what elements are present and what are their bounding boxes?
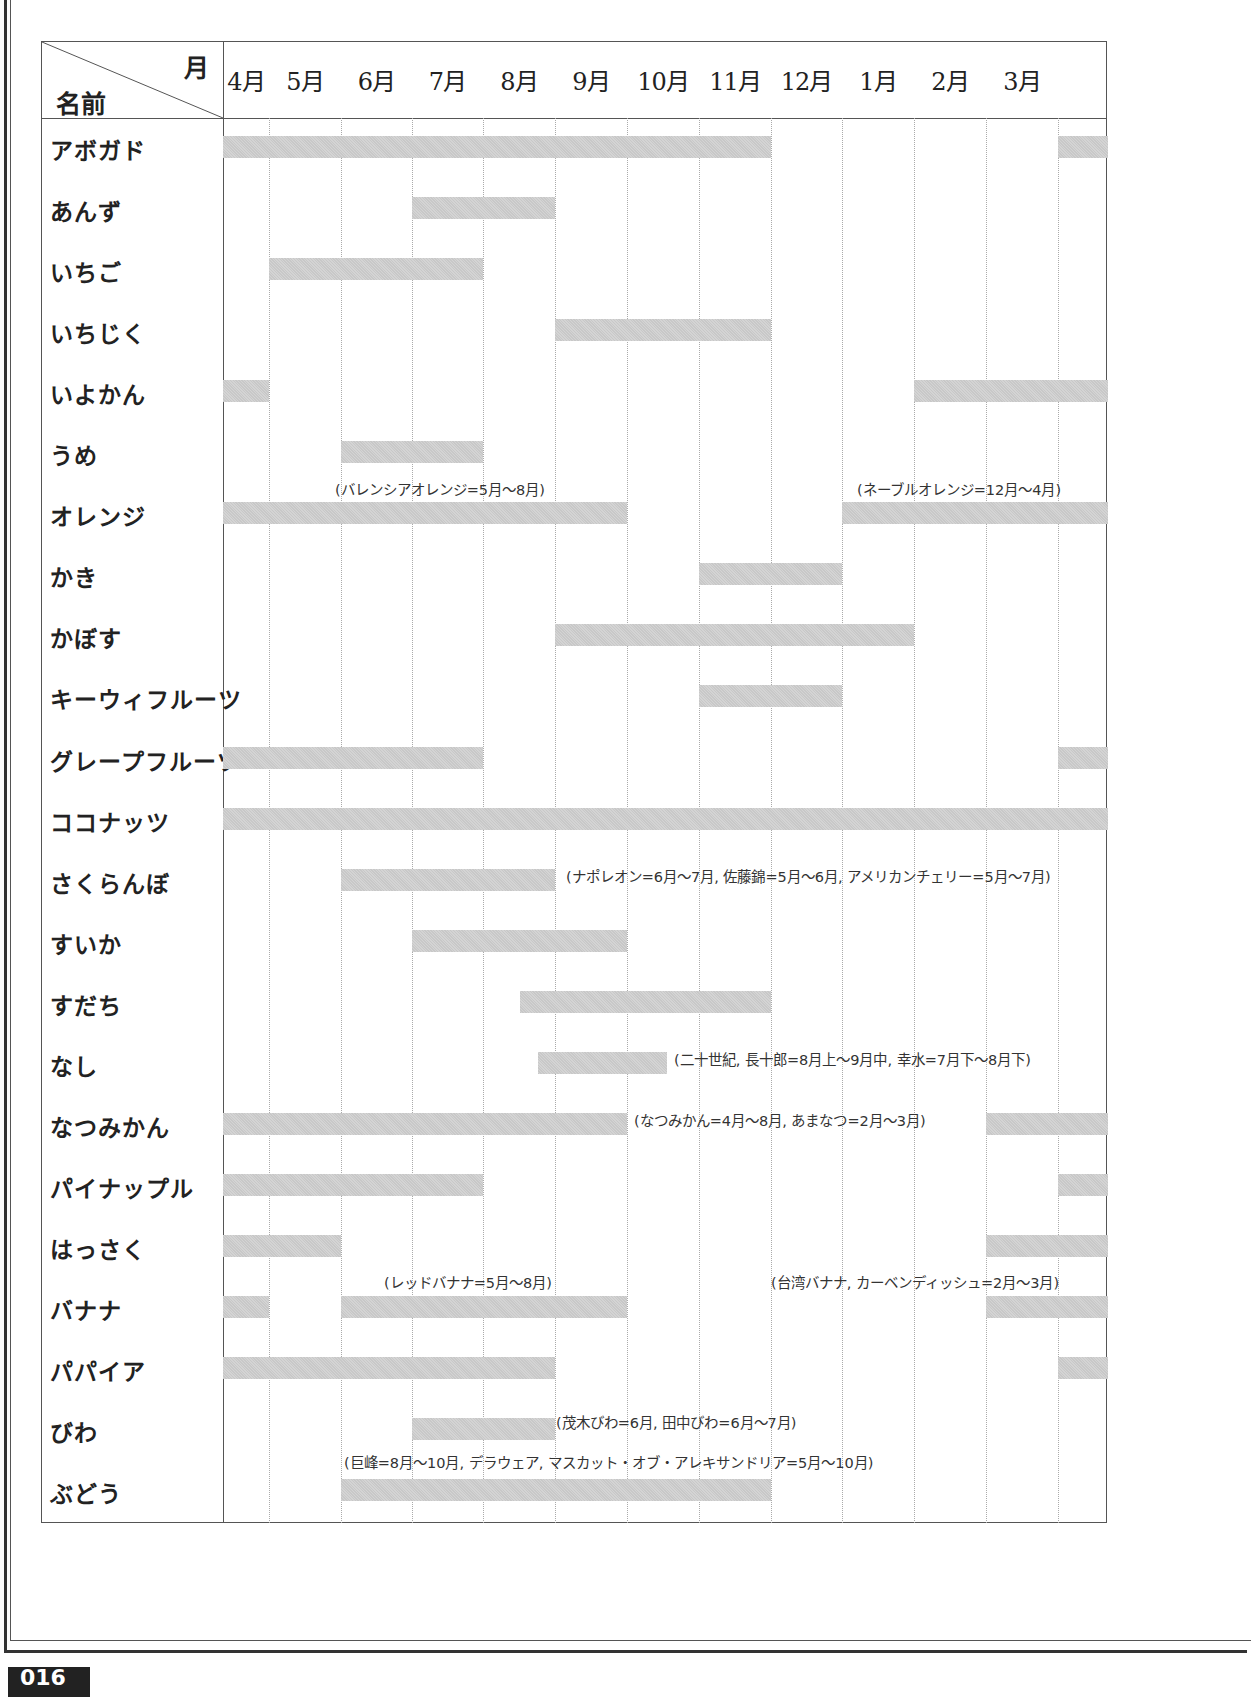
month-header-12: 3月 [1003, 62, 1040, 97]
fruit-name: いちご [50, 254, 122, 288]
page-number: 016 [8, 1667, 90, 1697]
season-bar [555, 624, 914, 646]
month-header-8: 11月 [709, 62, 761, 97]
fruit-name: なし [50, 1048, 98, 1082]
fruit-name: キーウィフルーツ [50, 681, 242, 715]
variety-note: (なつみかん=4月～8月, あまなつ=2月～3月) [634, 1109, 926, 1130]
fruit-name: いよかん [50, 376, 146, 410]
season-bar [223, 1296, 269, 1318]
variety-note: (巨峰=8月～10月, デラウェア, マスカット・オブ・アレキサンドリア=5月～… [344, 1451, 873, 1472]
fruit-name: かぼす [50, 620, 122, 654]
fruit-name: バナナ [50, 1292, 122, 1326]
fruit-name: ココナッツ [50, 804, 170, 838]
season-bar [1058, 136, 1108, 158]
season-bar [223, 1174, 483, 1196]
season-bar [223, 747, 483, 769]
season-bar [223, 808, 1108, 830]
fruit-name: パパイア [50, 1353, 146, 1387]
season-bar [555, 319, 771, 341]
corner-name-label: 名前 [56, 84, 106, 120]
month-header-3: 6月 [358, 62, 395, 97]
season-bar [520, 991, 771, 1013]
season-bar [341, 869, 555, 891]
fruit-name: なつみかん [50, 1109, 170, 1143]
variety-note: (二十世紀, 長十郎=8月上～9月中, 幸水=7月下～8月下) [674, 1048, 1031, 1069]
month-header-5: 8月 [500, 62, 537, 97]
month-header-10: 1月 [859, 62, 896, 97]
fruit-name: びわ [50, 1414, 98, 1448]
fruit-name: かき [50, 559, 98, 593]
season-bar [223, 502, 627, 524]
fruit-name: うめ [50, 437, 98, 471]
fruit-name: あんず [50, 193, 122, 227]
fruit-name: すいか [50, 926, 122, 960]
season-bar [223, 1357, 555, 1379]
season-bar [223, 1113, 627, 1135]
month-header-7: 10月 [637, 62, 689, 97]
corner-month-label: 月 [184, 48, 209, 84]
fruit-name: アボガド [50, 132, 146, 166]
season-bar [1058, 1357, 1108, 1379]
season-bar [538, 1052, 667, 1074]
season-bar [1058, 747, 1108, 769]
top-caption [150, 0, 1050, 6]
fruit-name: ぶどう [50, 1475, 122, 1509]
season-bar [412, 1418, 555, 1440]
season-bar [341, 441, 483, 463]
season-bar [699, 685, 842, 707]
variety-note: (バレンシアオレンジ=5月～8月) [335, 478, 545, 499]
month-header-11: 2月 [931, 62, 968, 97]
season-bar [223, 1235, 341, 1257]
season-bar [986, 1296, 1108, 1318]
season-bar [1058, 1174, 1108, 1196]
month-header-2: 5月 [286, 62, 323, 97]
table-header: 月 名前 4月5月6月7月8月9月10月11月12月1月2月3月 [42, 42, 1106, 119]
month-header-9: 12月 [781, 62, 833, 97]
season-bar [914, 380, 1108, 402]
season-bar [341, 1296, 627, 1318]
variety-note: (ネーブルオレンジ=12月～4月) [857, 478, 1061, 499]
season-bar [412, 930, 627, 952]
fruit-name-column: アボガドあんずいちごいちじくいよかんうめオレンジかきかぼすキーウィフルーツグレー… [42, 118, 224, 1523]
season-bar [269, 258, 483, 280]
fruit-name: パイナップル [50, 1170, 194, 1204]
variety-note: (台湾バナナ, カーベンディッシュ=2月～3月) [771, 1271, 1059, 1292]
season-bar [223, 136, 771, 158]
seasonal-fruit-table: 月 名前 4月5月6月7月8月9月10月11月12月1月2月3月 アボガドあんず… [41, 41, 1107, 1523]
header-corner-cell: 月 名前 [42, 42, 224, 118]
fruit-name: いちじく [50, 315, 146, 349]
season-bar [341, 1479, 771, 1501]
fruit-name: すだち [50, 987, 122, 1021]
season-bar [412, 197, 555, 219]
fruit-name: オレンジ [50, 498, 146, 532]
fruit-name: グレープフルーツ [50, 743, 241, 777]
season-bar [986, 1113, 1108, 1135]
variety-note: (茂木びわ=6月, 田中びわ=6月～7月) [556, 1411, 797, 1432]
season-bar [223, 380, 269, 402]
variety-note: (ナポレオン=6月～7月, 佐藤錦=5月～6月, アメリカンチェリー=5月～7月… [566, 865, 1051, 886]
fruit-name: さくらんぼ [50, 865, 170, 899]
season-bar [699, 563, 842, 585]
season-bar [986, 1235, 1108, 1257]
month-header-6: 9月 [572, 62, 609, 97]
season-bar [842, 502, 1108, 524]
month-header-4: 7月 [429, 62, 466, 97]
month-header-1: 4月 [227, 62, 264, 97]
variety-note: (レッドバナナ=5月～8月) [384, 1271, 552, 1292]
fruit-name: はっさく [50, 1231, 146, 1265]
